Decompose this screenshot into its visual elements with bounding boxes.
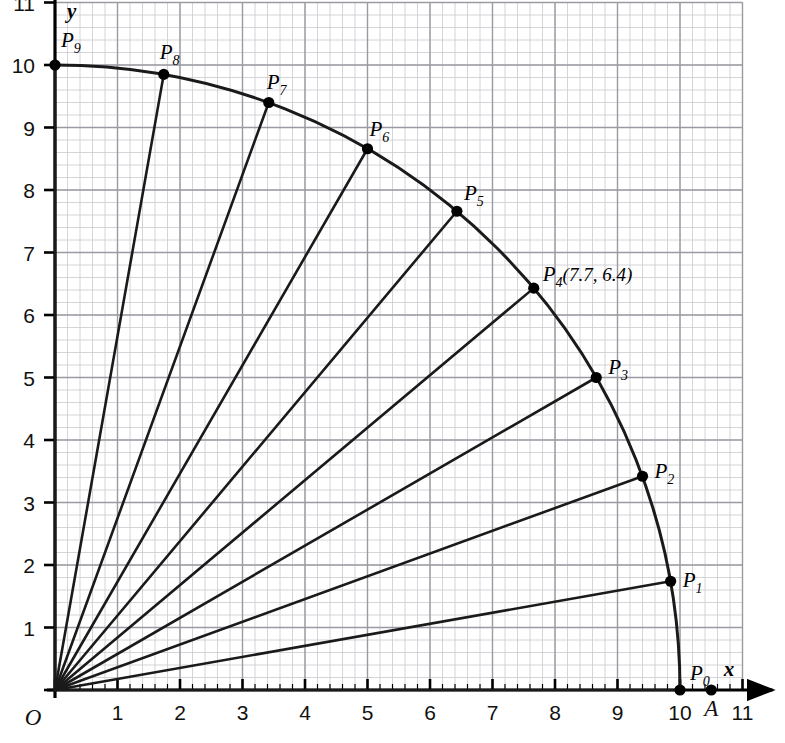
y-tick-label-7: 7 — [23, 242, 35, 265]
y-tick-label-10: 10 — [12, 54, 35, 77]
point-P1 — [665, 576, 676, 587]
y-tick-label-9: 9 — [23, 117, 35, 140]
x-tick-label-5: 5 — [362, 701, 374, 724]
x-axis-label: x — [723, 657, 735, 681]
x-tick-label-11: 11 — [732, 701, 754, 724]
x-tick-label-10: 10 — [668, 701, 691, 724]
y-tick-label-11: 11 — [13, 0, 35, 15]
point-label-P4: P4(7.7, 6.4) — [542, 262, 632, 290]
x-tick-label-1: 1 — [112, 701, 124, 724]
point-label-P3: P3 — [607, 355, 628, 383]
y-tick-label-8: 8 — [23, 179, 35, 202]
y-axis-label: y — [64, 0, 77, 23]
x-tick-label-6: 6 — [424, 701, 436, 724]
point-labels: P0P1P2P3P4(7.7, 6.4)P5P6P7P8P9A — [60, 28, 719, 721]
point-label-P1: P1 — [682, 568, 703, 596]
point-P2 — [637, 471, 648, 482]
point-label-A: A — [702, 696, 719, 721]
x-tick-label-8: 8 — [549, 701, 561, 724]
point-label-P8: P8 — [159, 40, 180, 68]
y-tick-label-5: 5 — [23, 367, 35, 390]
x-tick-label-9: 9 — [612, 701, 624, 724]
point-label-P7: P7 — [266, 70, 288, 98]
y-tick-label-1: 1 — [23, 617, 35, 640]
x-tick-label-3: 3 — [237, 701, 249, 724]
point-label-P9: P9 — [60, 28, 81, 56]
point-P6 — [362, 143, 373, 154]
y-tick-label-2: 2 — [23, 554, 35, 577]
point-P0 — [674, 684, 685, 695]
x-tick-label-7: 7 — [487, 701, 499, 724]
origin-label: O — [25, 705, 42, 730]
point-label-P5: P5 — [463, 181, 484, 209]
point-P9 — [49, 59, 60, 70]
point-label-P6: P6 — [369, 117, 390, 145]
y-tick-label-6: 6 — [23, 304, 35, 327]
diagram-canvas: 12345678910111234567891011O P0P1P2P3P4(7… — [0, 0, 785, 743]
axes — [47, 0, 773, 698]
point-P4 — [528, 283, 539, 294]
y-tick-label-3: 3 — [23, 492, 35, 515]
x-tick-label-4: 4 — [299, 701, 311, 724]
quarter-circle-figure: 12345678910111234567891011O P0P1P2P3P4(7… — [0, 0, 785, 743]
point-P5 — [451, 206, 462, 217]
y-tick-label-4: 4 — [23, 429, 35, 452]
point-P8 — [158, 69, 169, 80]
point-P3 — [591, 372, 602, 383]
x-tick-label-2: 2 — [174, 701, 186, 724]
point-P7 — [263, 97, 274, 108]
point-label-P2: P2 — [654, 459, 675, 487]
